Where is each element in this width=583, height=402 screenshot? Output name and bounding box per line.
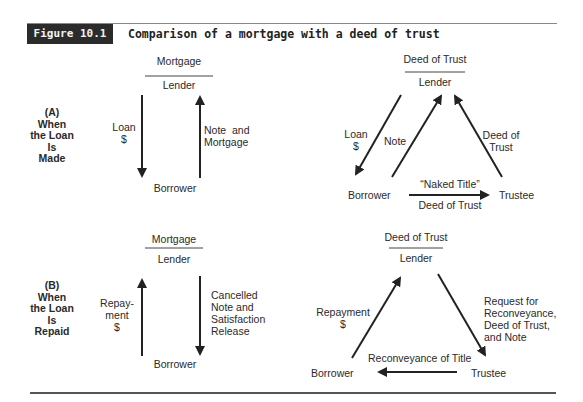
mortgage-b-borrower: Borrower — [145, 358, 205, 370]
dot-a-lender: Lender — [400, 76, 470, 88]
mortgage-a-lender: Lender — [145, 79, 213, 91]
dot-b-trustee: Trustee — [471, 367, 506, 379]
mortgage-b-cancelled-label: Cancelled Note and Satisfaction Release — [211, 289, 265, 337]
section-b-line: the Loan — [22, 303, 82, 315]
dot-b-reconveyance-label: Reconveyance of Title — [368, 352, 471, 364]
mortgage-a-loan-label: Loan $ — [110, 121, 138, 145]
label-line: Note and — [211, 301, 265, 313]
label-line: Repayment — [313, 306, 373, 318]
dot-a-trustee: Trustee — [499, 189, 534, 201]
mortgage-b-header: Mortgage — [145, 233, 203, 245]
dot-a-borrower: Borrower — [348, 189, 391, 201]
bottom-rule — [30, 392, 556, 394]
section-b-line: Repaid — [22, 326, 82, 338]
label-line: Mortgage — [204, 136, 250, 148]
label-line: Deed of — [480, 129, 522, 141]
label-line: $ — [313, 318, 373, 330]
section-a-line: Made — [22, 153, 82, 165]
mortgage-a-note-label: Note and Mortgage — [204, 124, 250, 148]
label-line: Satisfaction — [211, 313, 265, 325]
dot-a-deed-of-trust-transfer-label: Deed of Trust — [410, 199, 490, 211]
label-line: Note and — [204, 124, 250, 136]
dot-b-header: Deed of Trust — [381, 231, 451, 243]
dot-a-note-label: Note — [384, 135, 406, 147]
dot-b-repayment-label: Repayment $ — [313, 306, 373, 330]
label-line: Trust — [480, 141, 522, 153]
dot-b-request-label: Request for Reconveyance, Deed of Trust,… — [484, 295, 556, 343]
label-line: Release — [211, 325, 265, 337]
dot-a-naked-title-label: “Naked Title” — [410, 178, 490, 190]
dot-a-loan-label: Loan $ — [343, 128, 369, 152]
label-line: and Note — [484, 331, 556, 343]
label-line: $ — [97, 321, 137, 333]
mortgage-b-repayment-label: Repay- ment $ — [97, 297, 137, 333]
label-line: Loan — [343, 128, 369, 140]
dot-a-deed-label: Deed of Trust — [480, 129, 522, 153]
label-line: $ — [110, 133, 138, 145]
mortgage-a-header: Mortgage — [145, 55, 213, 67]
label-line: Repay- — [97, 297, 137, 309]
mortgage-b-lender: Lender — [145, 253, 203, 265]
dot-b-borrower: Borrower — [311, 367, 354, 379]
section-a-line: (A) — [22, 107, 82, 119]
dot-a-header: Deed of Trust — [395, 53, 475, 65]
section-a-line: the Loan — [22, 130, 82, 142]
dot-b-request-arrow — [438, 274, 485, 355]
dot-b-lender: Lender — [381, 252, 451, 264]
label-line: ment — [97, 309, 137, 321]
label-line: Cancelled — [211, 289, 265, 301]
label-line: Request for — [484, 295, 556, 307]
label-line: Reconveyance, — [484, 307, 556, 319]
label-line: Loan — [110, 121, 138, 133]
label-line: $ — [343, 140, 369, 152]
label-line: Deed of Trust, — [484, 319, 556, 331]
section-a-label: (A) When the Loan Is Made — [22, 107, 82, 165]
section-b-label: (B) When the Loan Is Repaid — [22, 280, 82, 338]
section-b-line: (B) — [22, 280, 82, 292]
mortgage-a-borrower: Borrower — [145, 182, 205, 194]
